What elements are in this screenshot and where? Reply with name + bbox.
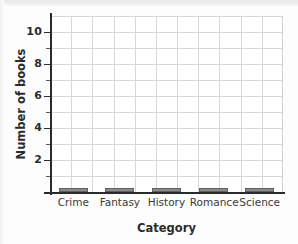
gridline-horizontal [50, 64, 283, 65]
gridline-vertical [92, 16, 93, 192]
x-tick-label: Crime [50, 196, 97, 208]
gridline-vertical [219, 16, 220, 192]
y-tick-major [44, 160, 50, 161]
x-tick-label: Romance [190, 196, 237, 208]
y-tick-label: 10 [20, 25, 42, 38]
y-tick-minor [46, 48, 50, 49]
y-tick-major [44, 128, 50, 129]
gridline-horizontal [50, 96, 283, 97]
y-tick-minor [46, 144, 50, 145]
y-tick-major [44, 32, 50, 33]
y-tick-minor [46, 176, 50, 177]
gridline-horizontal [50, 16, 283, 17]
gridline-vertical [198, 16, 199, 192]
gridline-horizontal [50, 144, 283, 145]
y-tick-minor [46, 80, 50, 81]
y-tick-major [44, 64, 50, 65]
chart-screenshot: 246810 CrimeFantasyHistoryRomanceScience… [0, 0, 298, 244]
gridline-vertical [156, 16, 157, 192]
x-axis-line [44, 192, 285, 194]
gridline-vertical [114, 16, 115, 192]
gridline-horizontal [50, 176, 283, 177]
plot-area [50, 16, 283, 192]
x-axis-tick-labels: CrimeFantasyHistoryRomanceScience [50, 196, 283, 212]
scan-artifact-left-band [0, 0, 4, 244]
y-axis-title: Number of books [14, 44, 28, 164]
gridline-vertical [262, 16, 263, 192]
gridline-vertical [177, 16, 178, 192]
gridline-vertical [135, 16, 136, 192]
gridline-horizontal [50, 160, 283, 161]
x-tick-label: Science [236, 196, 283, 208]
gridline-vertical [71, 16, 72, 192]
y-tick-minor [46, 112, 50, 113]
gridline-vertical [241, 16, 242, 192]
gridline-horizontal [50, 80, 283, 81]
gridline-horizontal [50, 32, 283, 33]
gridline-horizontal [50, 128, 283, 129]
gridline-horizontal [50, 48, 283, 49]
plot-right-border [282, 16, 283, 192]
y-axis-line [50, 13, 52, 195]
x-axis-title: Category [50, 221, 283, 235]
x-tick-label: History [143, 196, 190, 208]
y-tick-major [44, 96, 50, 97]
scan-artifact-top-band [0, 0, 298, 7]
x-tick-label: Fantasy [97, 196, 144, 208]
gridline-horizontal [50, 112, 283, 113]
